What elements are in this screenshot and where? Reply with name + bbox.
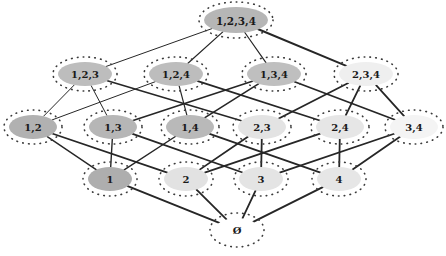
node-body[interactable] — [166, 115, 214, 139]
node-body[interactable] — [215, 218, 259, 242]
node-body[interactable] — [204, 7, 268, 33]
node-body[interactable] — [88, 167, 132, 191]
node-body[interactable] — [89, 115, 137, 139]
diagram-background — [0, 0, 446, 256]
node-body[interactable] — [339, 62, 393, 86]
node-body[interactable] — [390, 115, 438, 139]
node-body[interactable] — [247, 62, 301, 86]
node-body[interactable] — [9, 115, 57, 139]
hasse-diagram-canvas: 1,2,3,41,2,31,2,41,3,42,3,41,21,31,42,32… — [0, 0, 446, 256]
node-body[interactable] — [317, 167, 361, 191]
node-body[interactable] — [58, 62, 112, 86]
node-body[interactable] — [149, 62, 203, 86]
node-body[interactable] — [239, 167, 283, 191]
node-body[interactable] — [316, 115, 364, 139]
node-body[interactable] — [238, 115, 286, 139]
node-body[interactable] — [164, 167, 208, 191]
